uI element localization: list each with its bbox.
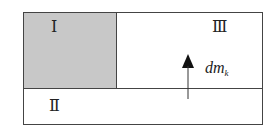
flow-label: dmk: [205, 60, 229, 78]
flow-arrow-up-icon: [181, 54, 195, 99]
flow-label-main: dm: [205, 59, 225, 76]
region-3-label: Ⅲ: [212, 19, 227, 35]
flow-label-subscript: k: [225, 68, 229, 78]
region-divider-horizontal: [23, 88, 263, 89]
region-1-label: Ⅰ: [51, 19, 57, 35]
region-1-shaded: [23, 12, 117, 89]
region-2-label: Ⅱ: [49, 98, 60, 114]
